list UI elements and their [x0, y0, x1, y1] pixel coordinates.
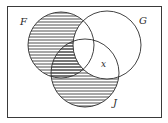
- venn-diagram: F G J x: [0, 0, 168, 123]
- label-f: F: [19, 16, 28, 27]
- label-g: G: [139, 15, 147, 26]
- label-j: J: [111, 97, 118, 108]
- region-label-x: x: [101, 59, 106, 69]
